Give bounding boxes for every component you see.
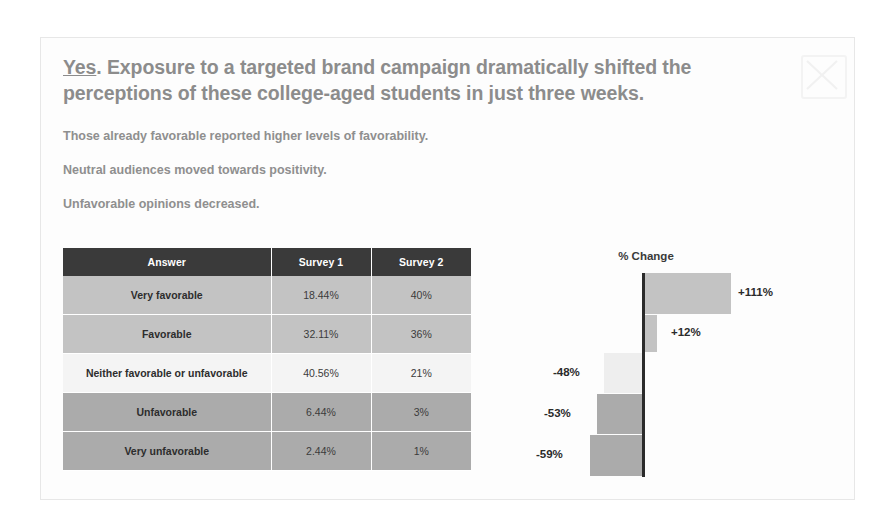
cell-survey-1: 2.44% <box>271 432 371 471</box>
table-row: Neither favorable or unfavorable 40.56% … <box>63 354 471 393</box>
cell-survey-1: 6.44% <box>271 393 371 432</box>
cell-answer: Unfavorable <box>63 393 271 432</box>
chart-bar-row: -53% <box>486 394 831 435</box>
table-row: Very favorable 18.44% 40% <box>63 276 471 315</box>
chart-bar-label-neither: -48% <box>553 366 580 378</box>
summary-line-2: Neutral audiences moved towards positivi… <box>63 163 327 177</box>
page-title: Yes. Exposure to a targeted brand campai… <box>63 54 783 106</box>
headline-rest: . Exposure to a targeted brand campaign … <box>63 56 691 104</box>
chart-bar-neither <box>604 353 642 393</box>
cell-answer: Very favorable <box>63 276 271 315</box>
table-header-row: Answer Survey 1 Survey 2 <box>63 248 471 276</box>
table-row: Unfavorable 6.44% 3% <box>63 393 471 432</box>
summary-line-1: Those already favorable reported higher … <box>63 129 428 143</box>
chart-bar-very-favorable <box>645 273 731 314</box>
cell-survey-1: 18.44% <box>271 276 371 315</box>
cell-survey-2: 1% <box>371 432 471 471</box>
chart-bar-row: -59% <box>486 435 831 477</box>
summary-line-3: Unfavorable opinions decreased. <box>63 197 260 211</box>
chart-title: % Change <box>586 250 706 262</box>
chart-bar-label-very-favorable: +111% <box>738 286 773 298</box>
column-header-survey-1: Survey 1 <box>271 248 371 276</box>
table-row: Favorable 32.11% 36% <box>63 315 471 354</box>
cell-survey-1: 40.56% <box>271 354 371 393</box>
column-header-survey-2: Survey 2 <box>371 248 471 276</box>
chart-bar-label-very-unfavorable: -59% <box>536 448 563 460</box>
survey-results-table: Answer Survey 1 Survey 2 Very favorable … <box>63 248 471 471</box>
percent-change-chart: % Change +111% +12% -48% -53% -59% <box>486 248 831 493</box>
chart-bar-row: -48% <box>486 353 831 394</box>
chart-bar-row: +12% <box>486 315 831 353</box>
column-header-answer: Answer <box>63 248 271 276</box>
chart-bar-very-unfavorable <box>590 435 642 476</box>
cell-answer: Neither favorable or unfavorable <box>63 354 271 393</box>
broken-image-icon <box>801 55 847 99</box>
headline-lead: Yes <box>63 56 96 78</box>
cell-survey-1: 32.11% <box>271 315 371 354</box>
slide-card: Yes. Exposure to a targeted brand campai… <box>40 37 855 500</box>
chart-bar-label-unfavorable: -53% <box>544 407 571 419</box>
cell-answer: Favorable <box>63 315 271 354</box>
table-row: Very unfavorable 2.44% 1% <box>63 432 471 471</box>
chart-bar-favorable <box>645 315 657 352</box>
cell-survey-2: 40% <box>371 276 471 315</box>
chart-bar-row: +111% <box>486 273 831 315</box>
chart-bar-unfavorable <box>597 394 642 434</box>
cell-answer: Very unfavorable <box>63 432 271 471</box>
cell-survey-2: 3% <box>371 393 471 432</box>
chart-bar-label-favorable: +12% <box>671 326 701 338</box>
cell-survey-2: 21% <box>371 354 471 393</box>
cell-survey-2: 36% <box>371 315 471 354</box>
